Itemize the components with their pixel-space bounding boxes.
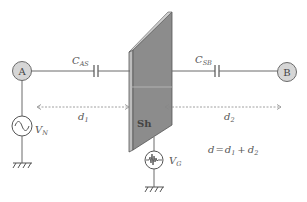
capacitor-csb-icon <box>215 65 219 77</box>
ac-source-vn-icon <box>12 116 32 136</box>
node-a: A <box>13 62 32 81</box>
node-b-label: B <box>283 67 290 78</box>
ground-icon <box>13 163 32 168</box>
vg-label: VG <box>169 155 181 168</box>
shield-plate: Sh <box>129 12 172 152</box>
node-a-label: A <box>17 66 26 77</box>
ground-icon <box>145 187 164 192</box>
noise-source-vg-icon <box>145 151 163 169</box>
capacitor-cas-icon <box>94 65 98 77</box>
plate-label: Sh <box>137 118 152 129</box>
distance-d2-arrow <box>165 105 281 110</box>
vn-label: VN <box>35 124 48 137</box>
csb-label: CSB <box>195 54 212 67</box>
distance-equation: d=d1+d2 <box>208 144 258 157</box>
cas-label: CAS <box>72 55 89 68</box>
node-b: B <box>278 63 297 82</box>
distance-d1-arrow <box>37 105 129 110</box>
d1-label: d1 <box>78 111 89 124</box>
circuit-diagram: Sh A CAS CSB B VN V <box>0 0 307 202</box>
d2-label: d2 <box>224 111 235 124</box>
